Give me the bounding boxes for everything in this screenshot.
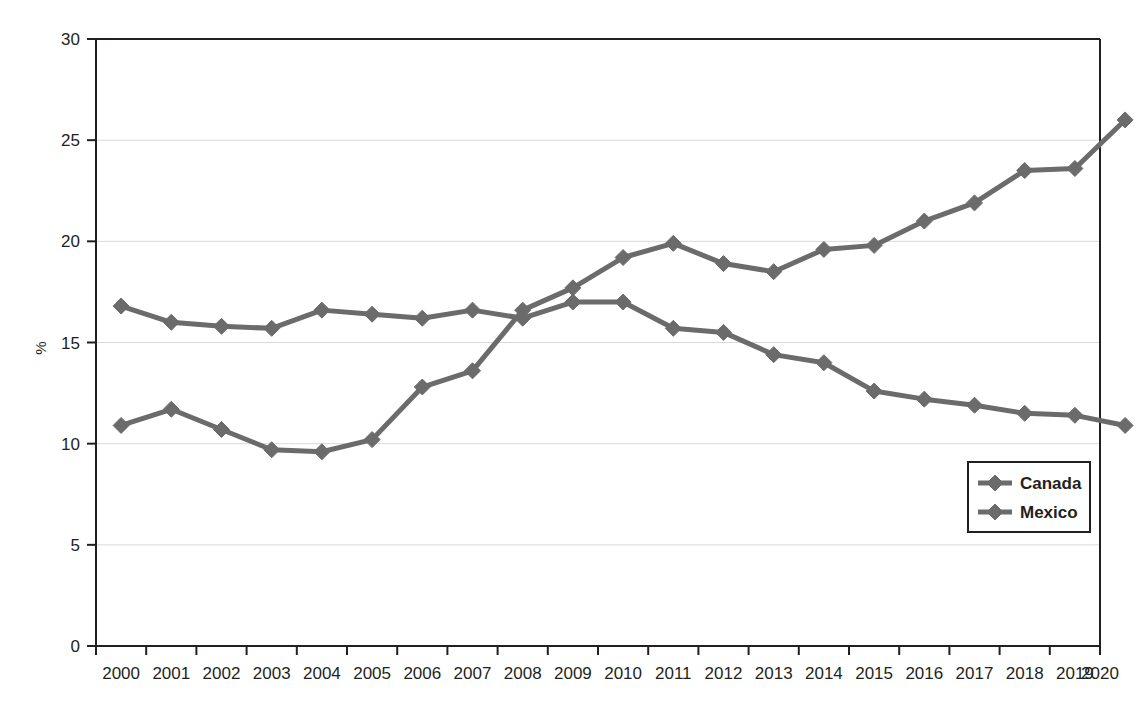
x-tick-label: 2012	[705, 664, 743, 683]
x-tick-label: 2003	[253, 664, 291, 683]
x-tick-label: 2020	[1081, 664, 1119, 683]
legend-label: Canada	[1020, 474, 1082, 493]
y-tick-label: 25	[61, 131, 80, 150]
legend-label: Mexico	[1020, 503, 1078, 522]
line-chart-figure: 051015202530 200020012002200320042005200…	[0, 0, 1148, 707]
y-tick-label: 30	[61, 30, 80, 49]
x-tick-label: 2018	[1006, 664, 1044, 683]
data-point-marker	[1117, 417, 1133, 433]
x-tick-label: 2004	[303, 664, 341, 683]
y-tick-label: 20	[61, 232, 80, 251]
x-tick-label: 2006	[403, 664, 441, 683]
chart-legend: CanadaMexico	[968, 462, 1090, 532]
x-tick-label: 2000	[102, 664, 140, 683]
y-tick-label: 5	[71, 536, 80, 555]
x-tick-label: 2001	[152, 664, 190, 683]
x-axis-ticks: 2000200120022003200420052006200720082009…	[96, 646, 1119, 683]
y-axis-title: %	[32, 341, 49, 354]
x-tick-label: 2015	[855, 664, 893, 683]
x-tick-label: 2002	[203, 664, 241, 683]
y-axis-ticks: 051015202530	[61, 30, 96, 656]
x-tick-label: 2009	[554, 664, 592, 683]
chart-canvas: 051015202530 200020012002200320042005200…	[0, 0, 1148, 707]
y-tick-label: 15	[61, 334, 80, 353]
x-tick-label: 2005	[353, 664, 391, 683]
x-tick-label: 2016	[905, 664, 943, 683]
x-tick-label: 2008	[504, 664, 542, 683]
x-tick-label: 2010	[604, 664, 642, 683]
x-tick-label: 2011	[655, 664, 692, 683]
y-tick-label: 0	[71, 637, 80, 656]
y-tick-label: 10	[61, 435, 80, 454]
x-tick-label: 2013	[755, 664, 793, 683]
x-tick-label: 2014	[805, 664, 843, 683]
x-tick-label: 2007	[454, 664, 492, 683]
x-tick-label: 2017	[956, 664, 994, 683]
